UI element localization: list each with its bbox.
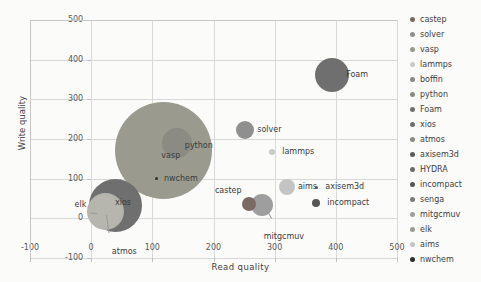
legend-marker-icon [410, 62, 415, 67]
legend-marker-icon [410, 212, 415, 217]
y-tick-mark [87, 139, 91, 140]
point-label-Foam: Foam [346, 71, 368, 79]
point-label-elk: elk [75, 201, 87, 209]
legend-item-label: elk [420, 222, 432, 237]
legend-item-label: nwchem [420, 252, 454, 267]
y-tick-mark [87, 179, 91, 180]
x-axis-tick-label: 200 [189, 244, 239, 252]
legend-marker-icon [410, 122, 415, 127]
legend-item-label: boffin [420, 72, 443, 87]
x-tick-mark [152, 258, 153, 262]
legend-item-label: python [420, 87, 448, 102]
point-label-solver: solver [257, 126, 281, 134]
legend-item-nwchem[interactable]: nwchem [410, 252, 480, 267]
x-tick-mark [30, 258, 31, 262]
label-leader-line [90, 212, 97, 214]
x-tick-mark [214, 258, 215, 262]
x-axis-tick-label: 400 [311, 244, 361, 252]
legend-item-HYDRA[interactable]: HYDRA [410, 162, 480, 177]
point-label-castep: castep [215, 187, 242, 195]
legend-marker-icon [410, 47, 415, 52]
legend-marker-icon [410, 152, 415, 157]
y-axis-tick-label: 0 [37, 214, 83, 222]
x-tick-mark [336, 258, 337, 262]
y-tick-mark [87, 218, 91, 219]
point-label-aims: aims [298, 183, 317, 191]
legend-item-xios[interactable]: xios [410, 117, 480, 132]
legend-item-elk[interactable]: elk [410, 222, 480, 237]
legend-marker-icon [410, 17, 415, 22]
legend-marker-icon [410, 257, 415, 262]
legend-item-python[interactable]: python [410, 87, 480, 102]
point-label-xios: xios [115, 199, 131, 207]
x-tick-mark [397, 258, 398, 262]
bubble-solver[interactable] [236, 121, 254, 139]
y-axis-tick-label: 400 [37, 56, 83, 64]
bubble-incompact[interactable] [312, 199, 320, 207]
legend-item-vasp[interactable]: vasp [410, 42, 480, 57]
bubble-aims[interactable] [279, 179, 295, 195]
legend-item-Foam[interactable]: Foam [410, 102, 480, 117]
legend-item-label: incompact [420, 177, 462, 192]
gridline-horizontal [30, 99, 397, 100]
chart-legend: castepsolvervasplammpsboffinpythonFoamxi… [410, 12, 480, 267]
gridline-vertical [397, 20, 398, 258]
bubble-chart-screenshot: castepsolvervasplammpspythonFoamxiosatmo… [0, 0, 481, 282]
legend-item-label: castep [420, 12, 447, 27]
x-axis-tick-label: 0 [66, 244, 116, 252]
x-tick-mark [275, 258, 276, 262]
legend-item-label: aims [420, 237, 439, 252]
gridline-horizontal [30, 179, 397, 180]
legend-item-atmos[interactable]: atmos [410, 132, 480, 147]
point-label-mitgcmuv: mitgcmuv [264, 233, 304, 241]
legend-item-label: vasp [420, 42, 439, 57]
legend-marker-icon [410, 197, 415, 202]
y-tick-mark [87, 99, 91, 100]
bubble-nwchem[interactable] [155, 177, 158, 180]
point-label-vasp: vasp [161, 152, 180, 160]
point-label-python: python [185, 142, 213, 150]
legend-item-senga[interactable]: senga [410, 192, 480, 207]
y-axis-tick-label: 200 [37, 135, 83, 143]
legend-item-incompact[interactable]: incompact [410, 177, 480, 192]
legend-item-lammps[interactable]: lammps [410, 57, 480, 72]
bubble-lammps[interactable] [269, 149, 275, 155]
bubble-Foam[interactable] [315, 58, 349, 92]
plot-area: castepsolvervasplammpspythonFoamxiosatmo… [30, 20, 397, 258]
legend-marker-icon [410, 227, 415, 232]
legend-item-label: axisem3d [420, 147, 459, 162]
gridline-horizontal [30, 139, 397, 140]
y-tick-mark [87, 258, 91, 259]
legend-item-mitgcmuv[interactable]: mitgcmuv [410, 207, 480, 222]
x-tick-mark [91, 258, 92, 262]
legend-marker-icon [410, 137, 415, 142]
legend-marker-icon [410, 77, 415, 82]
y-axis-tick-label: 100 [37, 175, 83, 183]
legend-item-label: senga [420, 192, 444, 207]
y-axis-tick-label: 300 [37, 95, 83, 103]
legend-item-label: HYDRA [420, 162, 448, 177]
legend-item-castep[interactable]: castep [410, 12, 480, 27]
y-axis-title: Write quality [17, 83, 27, 163]
x-axis-tick-label: 300 [250, 244, 300, 252]
legend-marker-icon [410, 182, 415, 187]
legend-item-label: Foam [420, 102, 442, 117]
axis-left-spine [30, 20, 31, 258]
point-label-nwchem: nwchem [164, 175, 198, 183]
gridline-horizontal [30, 218, 397, 219]
x-axis-tick-label: 500 [372, 244, 422, 252]
x-axis-title: Read quality [0, 262, 481, 272]
point-label-lammps: lammps [282, 148, 314, 156]
legend-item-label: lammps [420, 57, 452, 72]
legend-item-boffin[interactable]: boffin [410, 72, 480, 87]
legend-marker-icon [410, 167, 415, 172]
point-label-incompact: incompact [327, 199, 369, 207]
legend-item-label: xios [420, 117, 436, 132]
legend-item-solver[interactable]: solver [410, 27, 480, 42]
legend-item-axisem3d[interactable]: axisem3d [410, 147, 480, 162]
legend-item-label: mitgcmuv [420, 207, 460, 222]
y-tick-mark [87, 60, 91, 61]
legend-item-label: solver [420, 27, 444, 42]
legend-marker-icon [410, 92, 415, 97]
legend-item-label: atmos [420, 132, 445, 147]
